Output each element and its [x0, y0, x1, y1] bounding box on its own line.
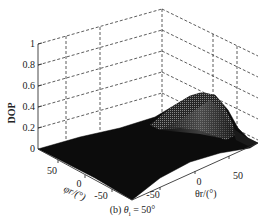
phi-tick-50: 50 [47, 165, 57, 176]
z-tick-0.4: 0.4 [23, 101, 36, 112]
z-axis-label: DOP [6, 102, 17, 123]
z-tick-0.8: 0.8 [23, 59, 36, 70]
theta-axis-label: θr/(°) [195, 188, 217, 200]
z-tick-0: 0 [30, 143, 35, 154]
z-tick-1: 1 [30, 38, 35, 49]
theta-tick-neg50: -50 [146, 189, 159, 200]
z-tick-0.2: 0.2 [23, 122, 36, 133]
z-tick-labels: 0 0.2 0.4 0.6 0.8 1 [23, 38, 36, 154]
caption-suffix: = 50° [131, 204, 156, 215]
phi-tick-neg50: -50 [94, 190, 107, 201]
theta-tick-50: 50 [233, 170, 243, 181]
theta-tick-0: 0 [197, 176, 202, 187]
caption-prefix: (b) [110, 204, 124, 215]
z-axis [38, 43, 42, 149]
surface-plot: 0 0.2 0.4 0.6 0.8 1 DOP [0, 0, 265, 224]
z-tick-0.6: 0.6 [23, 80, 36, 91]
phi-axis-label: φr/(°) [62, 183, 88, 204]
dop-surface-figure: 0 0.2 0.4 0.6 0.8 1 DOP [0, 0, 265, 224]
figure-caption: (b) θi = 50° [0, 204, 265, 218]
